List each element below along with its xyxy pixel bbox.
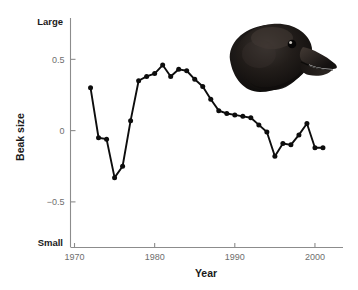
x-tick-label: 1990 (225, 252, 245, 262)
x-tick-label: 2000 (305, 252, 325, 262)
data-point (296, 132, 301, 137)
data-point (272, 154, 277, 159)
data-point (136, 78, 141, 83)
data-point (104, 137, 109, 142)
data-point (168, 74, 173, 79)
data-point (312, 145, 317, 150)
data-point (128, 118, 133, 123)
data-point (256, 122, 261, 127)
y-tick-label: −0.5 (47, 197, 65, 207)
y-tick-label: 0 (59, 126, 64, 136)
beak-size-series-line (91, 65, 323, 178)
data-point (288, 142, 293, 147)
data-point (88, 85, 93, 90)
x-axis-ticks: 1970198019902000 (64, 243, 324, 262)
data-point (112, 175, 117, 180)
data-point (224, 111, 229, 116)
data-point (304, 121, 309, 126)
y-tick-label: 0.5 (52, 55, 65, 65)
data-point (232, 112, 237, 117)
y-axis-bottom-label: Small (38, 237, 63, 248)
data-point (208, 97, 213, 102)
x-axis-title: Year (195, 267, 217, 279)
data-point (160, 63, 165, 68)
data-point (248, 115, 253, 120)
data-point (264, 130, 269, 135)
x-tick-label: 1980 (145, 252, 165, 262)
y-axis-title: Beak size (14, 113, 26, 161)
figure-container: −0.500.5 1970198019902000 Large Small Be… (0, 0, 358, 290)
beak-size-line-chart: −0.500.5 1970198019902000 Large Small Be… (0, 0, 358, 290)
data-point (240, 114, 245, 119)
data-point (200, 84, 205, 89)
data-point (152, 71, 157, 76)
data-point (280, 141, 285, 146)
data-point (192, 77, 197, 82)
x-tick-label: 1970 (64, 252, 84, 262)
data-point (120, 164, 125, 169)
data-point (96, 135, 101, 140)
data-point (176, 67, 181, 72)
y-axis-ticks: −0.500.5 (47, 55, 76, 208)
data-point (216, 108, 221, 113)
data-point (320, 145, 325, 150)
data-point (184, 68, 189, 73)
axes (71, 18, 344, 248)
data-point (144, 74, 149, 79)
y-axis-top-label: Large (37, 16, 63, 27)
